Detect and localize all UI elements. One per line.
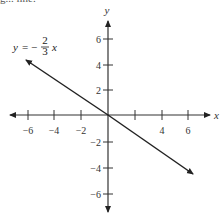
x-axis-label: x: [213, 109, 219, 121]
coordinate-plane: −6 −4 −2 4 6 6 4 2 −2 −4 −6 x y y = − 2 …: [0, 0, 221, 214]
svg-text:=: =: [22, 41, 28, 53]
y-tick-label: 2: [96, 85, 101, 96]
x-tick-label: −4: [49, 125, 60, 136]
svg-text:3: 3: [42, 45, 48, 57]
svg-text:−: −: [31, 41, 37, 53]
y-tick-label: 6: [96, 34, 101, 45]
x-tick-label: −2: [76, 125, 87, 136]
svg-text:x: x: [51, 41, 57, 53]
y-axis-label: y: [104, 4, 110, 16]
y-tick-label: −6: [90, 189, 101, 200]
x-tick-label: 6: [186, 125, 191, 136]
y-tick-label: −4: [90, 163, 101, 174]
plotted-line: [108, 115, 193, 174]
y-tick-label: 4: [96, 60, 101, 71]
x-tick-label: −6: [23, 125, 34, 136]
equation-label: y = − 2 3 x: [12, 34, 57, 57]
x-tick-label: 4: [160, 125, 165, 136]
svg-text:y: y: [12, 41, 18, 53]
y-tick-label: −2: [90, 137, 101, 148]
